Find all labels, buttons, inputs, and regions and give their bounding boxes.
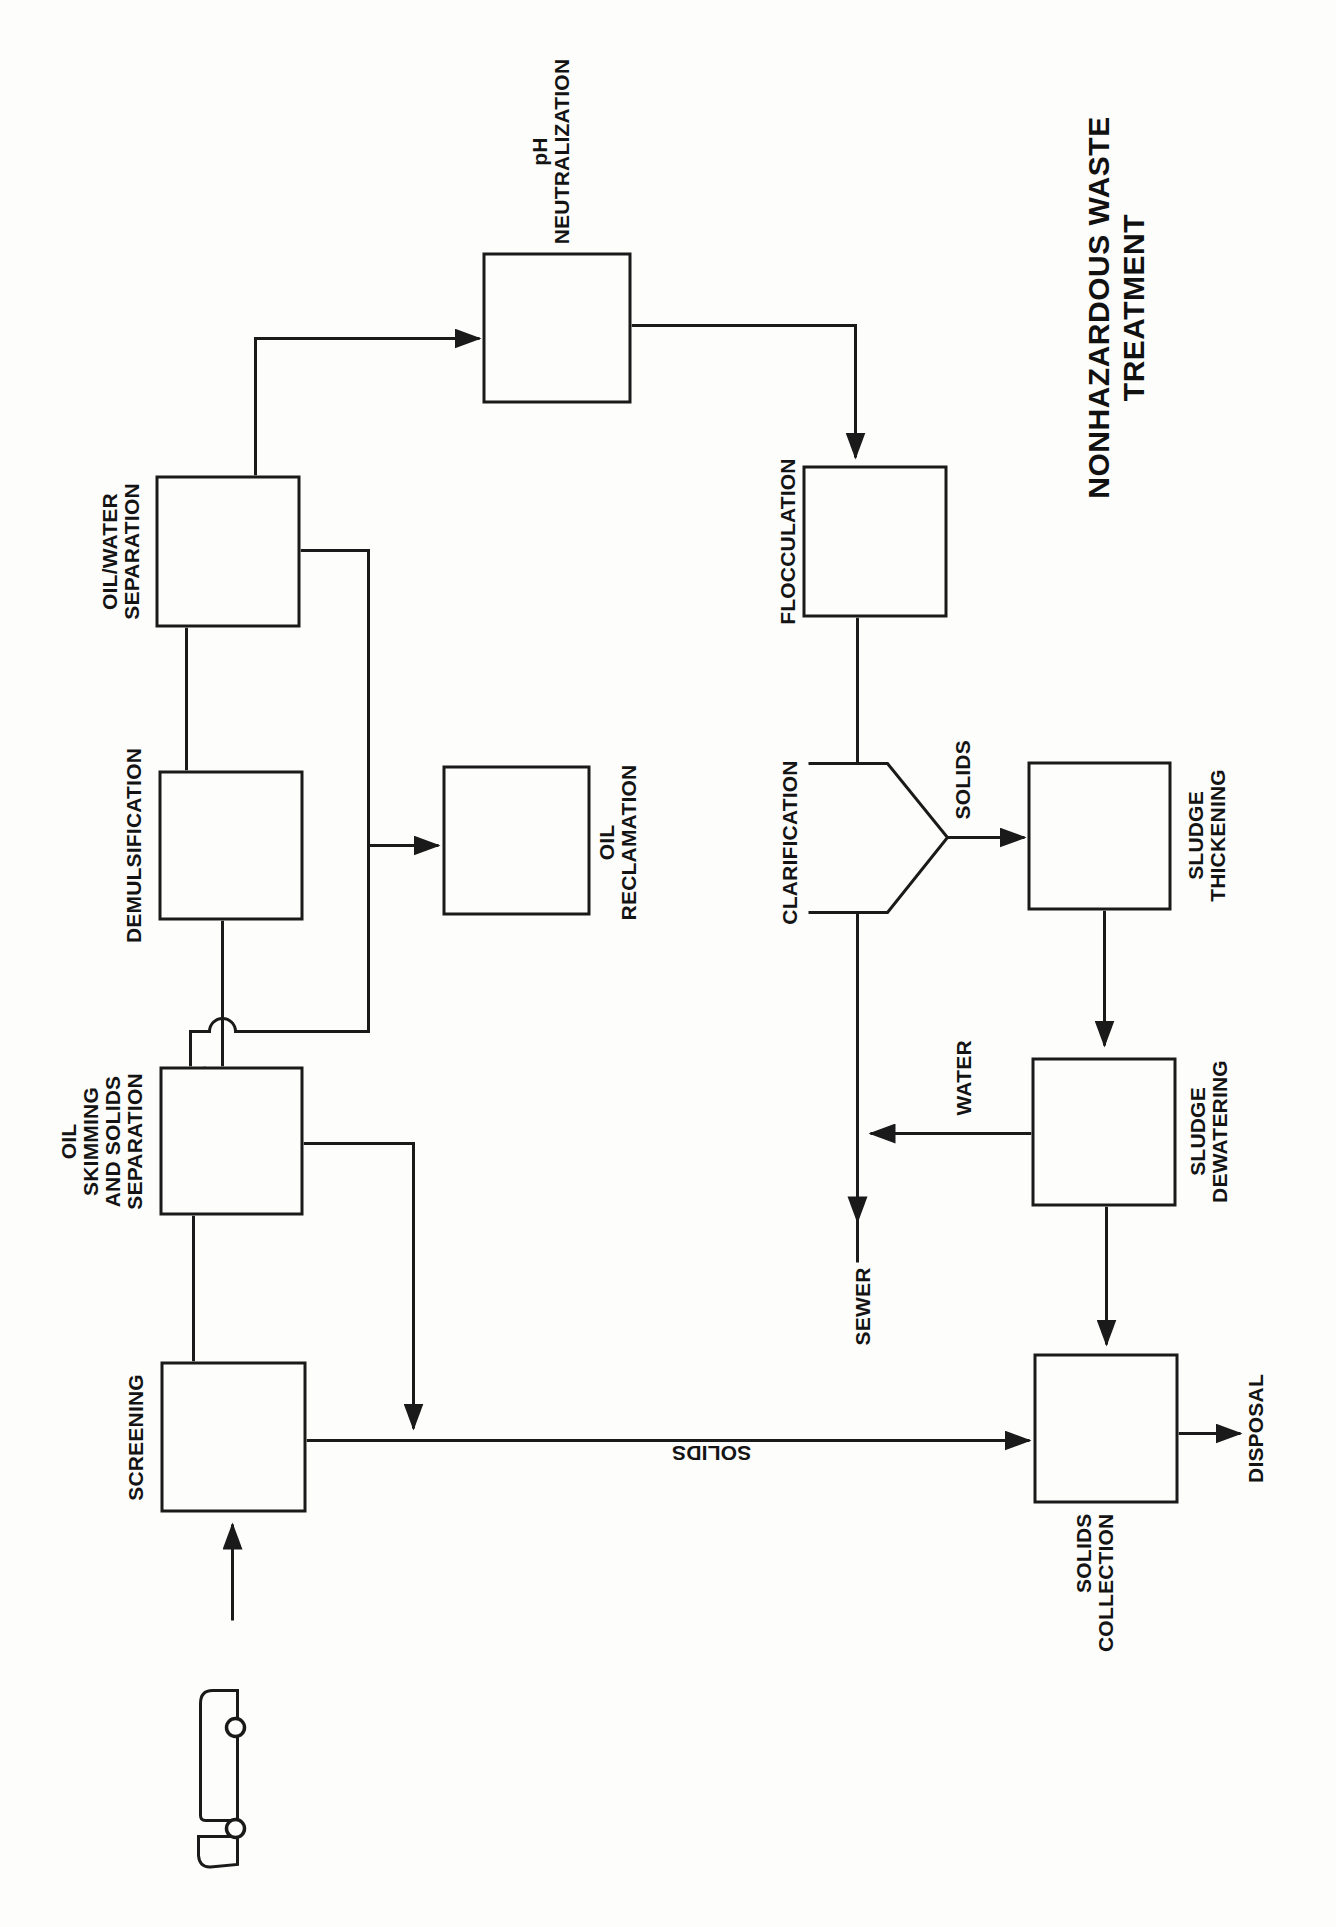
sludge-thickening-label: SLUDGE THICKENING [1184, 735, 1228, 935]
oil-water-separation-box [155, 475, 300, 627]
ph-neutralization-label: pH NEUTRALIZATION [528, 51, 572, 251]
truck-rear-wheel-icon [226, 1718, 244, 1736]
flow-arrow-oilwater-to-ph [255, 338, 479, 475]
disposal-flow-label: DISPOSAL [1244, 1328, 1266, 1528]
oil-skimming-label: OIL SKIMMING AND SOLIDS SEPARATION [57, 1041, 145, 1241]
oil-reclamation-label: OIL RECLAMATION [595, 742, 639, 942]
sludge-dewatering-box [1031, 1057, 1176, 1206]
solids-line-label: SOLIDS [651, 1441, 771, 1463]
oil-skimming-box [159, 1066, 303, 1215]
solids-flow-label: SOLIDS [951, 669, 973, 819]
flow-arrow-skimming-solids [303, 1143, 413, 1428]
solids-collection-label: SOLIDS COLLECTION [1072, 1513, 1116, 1713]
screening-label: SCREENING [124, 1337, 146, 1537]
clarification-label: CLARIFICATION [778, 742, 800, 942]
clarifier-funnel-icon [808, 763, 947, 912]
water-flow-label: WATER [952, 965, 974, 1115]
screening-box [160, 1361, 306, 1512]
ph-neutralization-box [482, 252, 631, 403]
figure-title: NONHAZARDOUS WASTE TREATMENT [1080, 107, 1150, 507]
flocculation-box [802, 465, 947, 617]
scanned-page: SCREENING OIL SKIMMING AND SOLIDS SEPARA… [0, 0, 1336, 1927]
sewer-arrowhead-icon [847, 1196, 867, 1223]
demulsification-label: DEMULSIFICATION [122, 725, 144, 965]
sludge-dewatering-label: SLUDGE DEWATERING [1186, 1031, 1230, 1231]
flow-arrow-ph-to-flocculation [631, 325, 855, 457]
oil-water-separation-label: OIL/WATER SEPARATION [98, 451, 142, 651]
sewer-flow-label: SEWER [851, 1267, 873, 1467]
oil-reclamation-box [442, 765, 590, 915]
solids-collection-box [1033, 1353, 1178, 1503]
flocculation-label: FLOCCULATION [776, 441, 798, 641]
truck-front-wheel-icon [226, 1819, 244, 1837]
demulsification-box [158, 770, 303, 920]
sludge-thickening-box [1027, 761, 1171, 910]
flow-diagram: SCREENING OIL SKIMMING AND SOLIDS SEPARA… [0, 0, 1336, 1927]
tank-truck-icon [198, 1690, 244, 1867]
